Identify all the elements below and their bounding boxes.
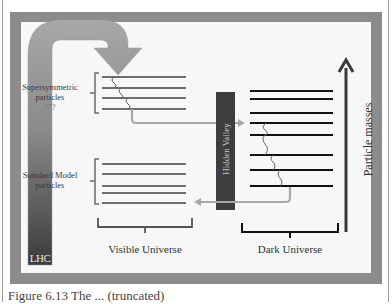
visible-universe-label: Visible Universe — [98, 243, 192, 255]
decay-squiggle-icon — [112, 77, 130, 109]
supersymmetric-label: Supersymmetric particles ??? — [8, 82, 92, 112]
standard-model-label-line1: Standard Model — [8, 170, 92, 180]
visible-universe-bracket — [98, 218, 192, 233]
figure-caption: Figure 6.13 The ... (truncated) — [8, 288, 164, 304]
dark-universe-bracket — [242, 223, 338, 238]
supersymmetric-label-line1: Supersymmetric — [8, 82, 92, 92]
dark-levels — [250, 91, 333, 186]
standard-model-label-line2: particles — [8, 180, 92, 190]
supersymmetric-levels — [102, 77, 186, 109]
arrowhead-icon — [238, 119, 245, 127]
flow-arrow-to-visible — [200, 186, 290, 202]
standard-model-levels — [102, 164, 186, 203]
lhc-label: LHC — [28, 252, 52, 264]
supersymmetric-label-line2: particles — [8, 92, 92, 102]
particle-masses-label: Particle masses — [361, 90, 376, 190]
particle-masses-arrow-icon — [339, 60, 353, 232]
arrowhead-icon — [194, 198, 201, 206]
hidden-valley-label: Hidden Valley — [221, 109, 231, 189]
standard-model-label: Standard Model particles — [8, 170, 92, 190]
lhc-arrow-icon — [28, 20, 142, 265]
dark-universe-label: Dark Universe — [240, 243, 340, 255]
supersymmetric-label-line3: ??? — [8, 102, 92, 112]
